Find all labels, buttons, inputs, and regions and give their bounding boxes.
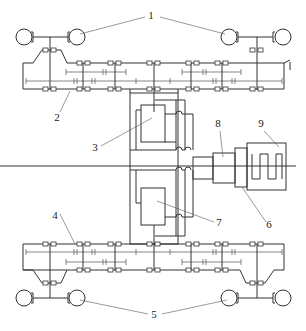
label-9: 9 <box>258 117 264 129</box>
lower-right-wheel-assembly <box>221 290 291 306</box>
upper-gear-housing <box>23 48 290 112</box>
label-8: 8 <box>215 117 221 129</box>
lower-gear-housing <box>23 242 284 298</box>
label-3: 3 <box>92 141 98 153</box>
label-6: 6 <box>266 218 272 230</box>
label-5: 5 <box>151 308 157 320</box>
label-4: 4 <box>52 209 58 221</box>
coupling-6 <box>235 148 247 187</box>
label-1: 1 <box>148 9 154 21</box>
label-7: 7 <box>216 216 222 228</box>
transmission-diagram: 1 2 3 4 5 6 7 8 9 <box>0 0 306 331</box>
label-2: 2 <box>54 111 60 123</box>
shaft-coupling <box>193 153 235 183</box>
